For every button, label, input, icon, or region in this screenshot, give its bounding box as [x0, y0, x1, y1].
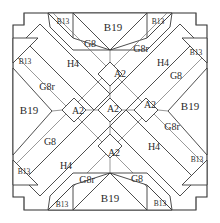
label-g8r-top-right: G8r	[133, 43, 149, 54]
label-b19-top-center: B19	[104, 21, 123, 33]
label-b19-bottom-center: B19	[101, 192, 120, 204]
label-b19-left: B19	[20, 104, 39, 116]
label-b13-right-upper: B13	[190, 48, 203, 57]
label-a2-bottom: A2	[108, 147, 120, 158]
label-h4-left: H4	[67, 58, 79, 69]
quilt-block-svg: B13 B19 B13 G8 G8r B13 B13 H4 H4 G8 G8r …	[0, 0, 220, 223]
label-a2-left: A2	[72, 105, 84, 116]
label-g8r-bottom-left: G8r	[79, 174, 95, 185]
inner-line-6	[158, 110, 168, 111]
label-b13-bottom-right: B13	[154, 199, 167, 208]
label-g8r-left: G8r	[39, 81, 55, 92]
label-g8-bottom-right: G8	[131, 173, 143, 184]
inner-line-5	[52, 110, 62, 111]
label-b19-right: B19	[181, 100, 200, 112]
label-a2-center: A2	[107, 103, 119, 114]
label-b13-right-lower: B13	[191, 155, 204, 164]
label-b13-top-left: B13	[57, 17, 70, 26]
label-b13-top-right: B13	[152, 17, 165, 26]
label-b13-bottom-left: B13	[56, 200, 69, 209]
label-h4-right: H4	[157, 57, 169, 68]
label-g8r-right-lower: G8r	[164, 121, 180, 132]
label-a2-right: A2	[144, 99, 156, 110]
label-g8-right-upper: G8	[170, 70, 182, 81]
label-b13-left-lower: B13	[18, 167, 31, 176]
label-g8-left-lower: G8	[44, 136, 56, 147]
label-a2-top: A2	[114, 68, 126, 79]
label-g8-top-left: G8	[84, 38, 96, 49]
label-h4-bottom-right: H4	[148, 141, 160, 152]
label-h4-bottom-left: H4	[60, 160, 72, 171]
label-b13-left-upper: B13	[19, 57, 32, 66]
quilt-diagram: B13 B19 B13 G8 G8r B13 B13 H4 H4 G8 G8r …	[0, 0, 220, 223]
